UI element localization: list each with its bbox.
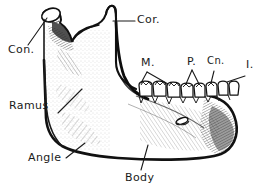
- label-molars: M.: [141, 57, 155, 68]
- label-condyle: Con.: [8, 44, 34, 55]
- label-premolars: P.: [187, 56, 196, 67]
- label-canine: Cn.: [207, 56, 225, 66]
- leader-premolar-b: [192, 70, 199, 84]
- leader-premolar-a: [186, 70, 192, 84]
- label-coronoid: Cor.: [137, 14, 160, 25]
- label-incisors: I.: [246, 59, 254, 70]
- mandible-illustration: [0, 0, 266, 195]
- figure-canvas: Con. Cor. M. P. Cn. I. Ramus Angle Body: [0, 0, 266, 195]
- label-ramus: Ramus: [9, 100, 49, 111]
- condyle-head: [40, 6, 62, 24]
- label-body: Body: [125, 172, 154, 183]
- label-angle: Angle: [28, 152, 61, 163]
- leader-canine: [211, 71, 214, 83]
